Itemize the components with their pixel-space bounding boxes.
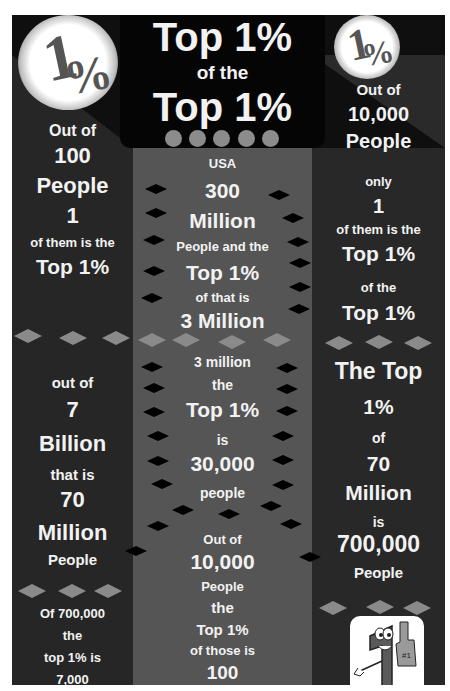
right-text: Top 1% bbox=[312, 302, 445, 323]
left-text: the bbox=[12, 629, 133, 642]
title-line-3: Top 1% bbox=[120, 87, 325, 127]
middle-text: Out of bbox=[133, 533, 312, 546]
right-text: of the bbox=[312, 281, 445, 294]
left-text: out of bbox=[12, 375, 133, 390]
infographic-panel: 1 % 1 % Top 1% of the Top 1% Out of 100 … bbox=[12, 15, 445, 685]
dot bbox=[262, 130, 279, 147]
right-text: of them is the bbox=[312, 223, 445, 236]
right-text: 1% bbox=[312, 396, 445, 417]
right-text: only bbox=[312, 175, 445, 188]
middle-text: Top 1% bbox=[133, 622, 312, 637]
right-text: The Top bbox=[312, 360, 445, 383]
right-text: of bbox=[312, 431, 445, 445]
middle-text: USA bbox=[133, 157, 312, 170]
left-text: Billion bbox=[12, 433, 133, 455]
middle-text: the bbox=[133, 600, 312, 615]
dot bbox=[213, 130, 230, 147]
dot bbox=[238, 130, 255, 147]
right-text: 1 bbox=[312, 196, 445, 216]
middle-text: of those is bbox=[133, 644, 312, 657]
dot bbox=[165, 130, 182, 147]
right-text: Top 1% bbox=[312, 243, 445, 264]
right-text: 10,000 bbox=[312, 104, 445, 124]
right-text: People bbox=[312, 565, 445, 580]
left-text: 70 bbox=[12, 489, 133, 511]
svg-text:#1: #1 bbox=[402, 651, 411, 660]
left-text: People bbox=[12, 552, 133, 567]
left-text: Of 700,000 bbox=[12, 607, 133, 620]
right-text: 700,000 bbox=[312, 533, 445, 556]
right-text: is bbox=[312, 515, 445, 529]
right-text: Million bbox=[312, 482, 445, 503]
left-text: 1 bbox=[12, 205, 133, 227]
one-percent-icon: 1 % bbox=[18, 15, 118, 110]
right-text: People bbox=[312, 131, 445, 151]
left-text: 7,000 bbox=[12, 673, 133, 685]
left-text: Out of bbox=[12, 123, 133, 139]
middle-text: People bbox=[133, 580, 312, 593]
middle-text: 10,000 bbox=[133, 551, 312, 572]
left-text: Million bbox=[12, 522, 133, 544]
one-percent-icon: 1 % bbox=[334, 15, 400, 79]
left-text: top 1% is bbox=[12, 651, 133, 664]
left-text: that is bbox=[12, 467, 133, 482]
left-text: of them is the bbox=[12, 236, 133, 249]
dot bbox=[189, 130, 206, 147]
title-line-1: Top 1% bbox=[120, 17, 325, 57]
right-text: 70 bbox=[312, 453, 445, 474]
middle-text: 3 Million bbox=[133, 310, 312, 331]
left-text: Top 1% bbox=[12, 256, 133, 277]
number-one-mascot-icon: #1 bbox=[350, 616, 424, 685]
left-text: 7 bbox=[12, 399, 133, 421]
title-line-2: of the bbox=[120, 63, 325, 82]
right-text: Out of bbox=[312, 82, 445, 97]
left-text: 100 bbox=[12, 145, 133, 167]
middle-text: 100 bbox=[133, 663, 312, 682]
left-text: People bbox=[12, 175, 133, 197]
